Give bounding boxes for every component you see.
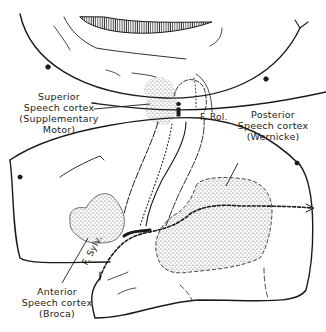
- corpus-callosum: [80, 17, 212, 33]
- superior-label-line1: Superior: [14, 91, 104, 102]
- superior-label-line4: Motor): [14, 124, 104, 135]
- posterior-label-line2: Speech cortex: [225, 120, 321, 131]
- superior-speech-area: [144, 78, 176, 125]
- rolandic-fissure-label: F. Rol.: [200, 112, 228, 123]
- posterior-label: Posterior Speech cortex (Wernicke): [225, 109, 321, 142]
- anterior-label-line1: Anterior: [14, 286, 100, 297]
- anterior-label-line3: (Broca): [14, 308, 100, 319]
- posterior-label-line1: Posterior: [225, 109, 321, 120]
- anterior-label: Anterior Speech cortex (Broca): [14, 286, 100, 319]
- brain-diagram: [0, 0, 326, 332]
- rolandic-top: [174, 74, 212, 112]
- superior-label-line3: (Supplementary: [14, 113, 104, 124]
- superior-label: Superior Speech cortex (Supplementary Mo…: [14, 91, 104, 135]
- superior-label-line2: Speech cortex: [14, 102, 104, 113]
- anterior-label-line2: Speech cortex: [14, 297, 100, 308]
- posterior-label-line3: (Wernicke): [225, 131, 321, 142]
